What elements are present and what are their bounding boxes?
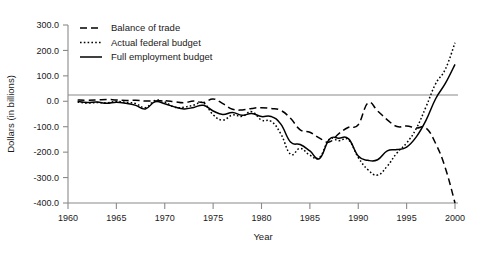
x-tick-label: 1980: [251, 213, 271, 223]
line-chart: 300.0200.0100.00.0-100.0-200.0-300.0-400…: [0, 0, 493, 253]
y-tick-label: 300.0: [36, 20, 59, 30]
y-tick-label: -100.0: [33, 122, 59, 132]
x-tick-label: 1960: [58, 213, 78, 223]
x-tick-label: 1970: [155, 213, 175, 223]
y-axis-tick-labels: 300.0200.0100.00.0-100.0-200.0-300.0-400…: [33, 20, 59, 208]
data-series-group: [78, 43, 455, 203]
legend-label: Full employment budget: [111, 51, 213, 62]
chart-container: 300.0200.0100.00.0-100.0-200.0-300.0-400…: [0, 0, 493, 253]
y-axis-title: Dollars (in billions): [5, 75, 16, 153]
x-tick-label: 2000: [445, 213, 465, 223]
y-tick-label: 100.0: [36, 71, 59, 81]
y-tick-label: 0.0: [46, 96, 59, 106]
y-tick-label: -400.0: [33, 198, 59, 208]
y-tick-label: 200.0: [36, 46, 59, 56]
x-tick-label: 1995: [397, 213, 417, 223]
x-axis-tick-labels: 196019651970197519801985199019952000: [58, 213, 465, 223]
y-axis-ticks: [63, 25, 68, 203]
series-line-full-employment-budget: [78, 64, 455, 161]
x-tick-label: 1965: [106, 213, 126, 223]
legend-label: Balance of trade: [111, 22, 180, 33]
series-line-actual-federal-budget: [78, 43, 455, 175]
chart-legend: Balance of tradeActual federal budgetFul…: [80, 22, 213, 62]
x-axis-ticks: [68, 203, 455, 209]
x-tick-label: 1985: [300, 213, 320, 223]
y-tick-label: -200.0: [33, 147, 59, 157]
y-tick-label: -300.0: [33, 173, 59, 183]
legend-label: Actual federal budget: [111, 37, 201, 48]
x-tick-label: 1990: [348, 213, 368, 223]
x-axis-title: Year: [253, 231, 272, 242]
series-line-balance-of-trade: [78, 99, 455, 203]
x-tick-label: 1975: [203, 213, 223, 223]
